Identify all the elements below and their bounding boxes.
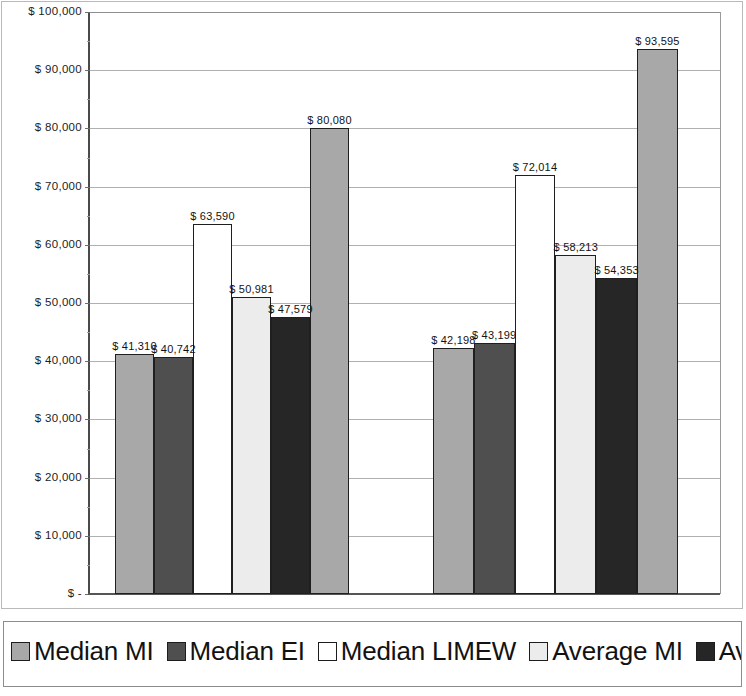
bar[interactable] bbox=[310, 128, 349, 594]
bar[interactable] bbox=[232, 297, 271, 594]
legend-item-median-ei[interactable]: Median EI bbox=[167, 637, 305, 665]
y-tick-mark bbox=[85, 303, 90, 304]
y-tick-mark-minor bbox=[87, 449, 90, 450]
bar-value-label: $ 40,742 bbox=[138, 343, 209, 355]
y-axis-tick-label: $ 50,000 bbox=[0, 296, 82, 308]
legend-swatch-median-mi bbox=[11, 642, 30, 661]
bar-value-label: $ 54,353 bbox=[580, 264, 653, 276]
gridline bbox=[90, 187, 720, 188]
legend-label-median-limew: Median LIMEW bbox=[341, 637, 516, 665]
y-tick-mark bbox=[85, 478, 90, 479]
bar[interactable] bbox=[433, 348, 474, 594]
y-tick-mark bbox=[85, 536, 90, 537]
y-axis-tick-label: $ 10,000 bbox=[0, 529, 82, 541]
legend-swatch-median-ei bbox=[167, 642, 186, 661]
y-tick-mark bbox=[85, 361, 90, 362]
y-axis-tick-label: $ 90,000 bbox=[0, 63, 82, 75]
gridline bbox=[90, 128, 720, 129]
bar-value-label: $ 63,590 bbox=[177, 210, 248, 222]
legend-item-median-limew[interactable]: Median LIMEW bbox=[318, 637, 516, 665]
legend-item-average-ei[interactable]: Avera bbox=[696, 637, 742, 665]
y-tick-mark-minor bbox=[87, 274, 90, 275]
bar[interactable] bbox=[154, 357, 193, 594]
bar[interactable] bbox=[115, 354, 154, 594]
y-tick-mark bbox=[85, 187, 90, 188]
bar[interactable] bbox=[271, 317, 310, 594]
y-tick-mark bbox=[85, 245, 90, 246]
bar-value-label: $ 43,199 bbox=[458, 329, 531, 341]
legend-item-average-mi[interactable]: Average MI bbox=[529, 637, 682, 665]
legend-swatch-average-mi bbox=[529, 642, 548, 661]
y-tick-mark-minor bbox=[87, 390, 90, 391]
y-axis-tick-label: $ 20,000 bbox=[0, 471, 82, 483]
y-axis-tick-label: $ 100,000 bbox=[0, 5, 82, 17]
y-tick-mark-minor bbox=[87, 41, 90, 42]
bar-value-label: $ 58,213 bbox=[539, 241, 612, 253]
chart-legend: Median MI Median EI Median LIMEW Average… bbox=[3, 621, 742, 687]
y-axis-tick-label: $ 40,000 bbox=[0, 354, 82, 366]
gridline bbox=[90, 70, 720, 71]
y-tick-mark-minor bbox=[87, 216, 90, 217]
legend-label-average-mi: Average MI bbox=[552, 637, 682, 665]
y-tick-mark bbox=[85, 419, 90, 420]
legend-label-median-mi: Median MI bbox=[34, 637, 154, 665]
plot-area: $ 41,310$ 40,742$ 63,590$ 50,981$ 47,579… bbox=[88, 12, 721, 594]
y-axis-tick-label: $ 60,000 bbox=[0, 238, 82, 250]
legend-item-median-mi[interactable]: Median MI bbox=[11, 637, 154, 665]
y-axis-tick-label: $ 70,000 bbox=[0, 180, 82, 192]
y-tick-mark-minor bbox=[87, 332, 90, 333]
y-axis-tick-label: $ 30,000 bbox=[0, 412, 82, 424]
bar-chart: $ 100,000$ 90,000$ 80,000$ 70,000$ 60,00… bbox=[0, 0, 746, 696]
y-axis-tick-label: $ 80,000 bbox=[0, 121, 82, 133]
gridline bbox=[90, 245, 720, 246]
bar[interactable] bbox=[637, 49, 678, 594]
legend-items: Median MI Median EI Median LIMEW Average… bbox=[11, 637, 742, 665]
plot-inner: $ 41,310$ 40,742$ 63,590$ 50,981$ 47,579… bbox=[90, 12, 720, 594]
bar[interactable] bbox=[555, 255, 596, 594]
bar[interactable] bbox=[193, 224, 232, 594]
y-tick-mark bbox=[85, 70, 90, 71]
bar-value-label: $ 50,981 bbox=[216, 283, 287, 295]
legend-label-median-ei: Median EI bbox=[190, 637, 305, 665]
bar-value-label: $ 93,595 bbox=[621, 35, 694, 47]
bar[interactable] bbox=[474, 343, 515, 594]
bar-value-label: $ 47,579 bbox=[255, 303, 326, 315]
y-tick-mark bbox=[85, 12, 90, 13]
bar[interactable] bbox=[596, 278, 637, 594]
legend-swatch-median-limew bbox=[318, 642, 337, 661]
bar-value-label: $ 80,080 bbox=[294, 114, 365, 126]
bar[interactable] bbox=[515, 175, 556, 594]
y-tick-mark-minor bbox=[87, 565, 90, 566]
y-tick-mark-minor bbox=[87, 158, 90, 159]
y-tick-mark-minor bbox=[87, 507, 90, 508]
y-tick-mark-minor bbox=[87, 99, 90, 100]
y-axis-tick-label: $ - bbox=[0, 587, 82, 599]
bar-value-label: $ 72,014 bbox=[499, 161, 572, 173]
legend-swatch-average-ei bbox=[696, 642, 715, 661]
gridline bbox=[90, 12, 720, 13]
legend-label-average-ei: Avera bbox=[719, 637, 742, 665]
y-tick-mark bbox=[85, 128, 90, 129]
